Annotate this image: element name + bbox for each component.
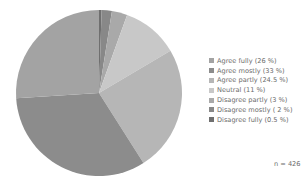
pie-slice-agree-fully	[16, 10, 99, 98]
legend-label-agree-fully: Agree fully (26 %)	[217, 57, 277, 65]
legend-swatch-disagree-fully	[209, 117, 214, 122]
legend-swatch-neutral	[209, 88, 214, 93]
chart-legend: Agree fully (26 %) Agree mostly (33 %) A…	[209, 56, 292, 125]
pie-chart	[0, 0, 200, 188]
legend-item-disagree-partly: Disagree partly (3 %)	[209, 95, 292, 105]
legend-label-disagree-fully: Disagree fully (0.5 %)	[217, 116, 289, 124]
legend-item-agree-partly: Agree partly (24.5 %)	[209, 76, 292, 86]
legend-label-disagree-mostly: Disagree mostly ( 2 %)	[217, 106, 292, 114]
legend-label-neutral: Neutral (11 %)	[217, 86, 265, 94]
legend-swatch-agree-fully	[209, 58, 214, 63]
legend-label-agree-mostly: Agree mostly (33 %)	[217, 67, 285, 75]
legend-swatch-disagree-partly	[209, 98, 214, 103]
legend-label-disagree-partly: Disagree partly (3 %)	[217, 96, 287, 104]
legend-swatch-agree-partly	[209, 78, 214, 83]
legend-item-agree-fully: Agree fully (26 %)	[209, 56, 292, 66]
legend-swatch-disagree-mostly	[209, 107, 214, 112]
legend-swatch-agree-mostly	[209, 68, 214, 73]
legend-item-agree-mostly: Agree mostly (33 %)	[209, 66, 292, 76]
legend-item-disagree-fully: Disagree fully (0.5 %)	[209, 115, 292, 125]
legend-item-disagree-mostly: Disagree mostly ( 2 %)	[209, 105, 292, 115]
legend-label-agree-partly: Agree partly (24.5 %)	[217, 76, 288, 84]
legend-item-neutral: Neutral (11 %)	[209, 85, 292, 95]
sample-size-label: n = 426	[274, 160, 300, 168]
